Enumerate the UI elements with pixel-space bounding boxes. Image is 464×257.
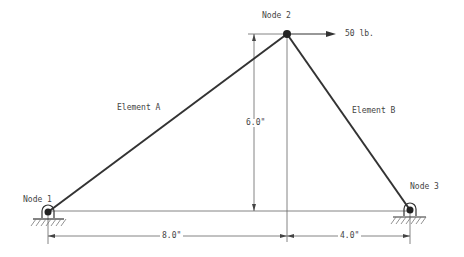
span-right-arrow-end	[403, 234, 410, 238]
height-arrow-top	[252, 34, 256, 41]
node1-pin-support	[31, 205, 66, 226]
height-arrow-bottom	[252, 204, 256, 211]
element-b-member	[287, 34, 410, 210]
node2-label: Node 2	[262, 12, 291, 20]
element-b-label: Element B	[352, 107, 395, 115]
load-label: 50 lb.	[345, 30, 374, 38]
node3-label: Node 3	[410, 183, 439, 191]
span-right-arrow-start	[287, 234, 294, 238]
truss-diagram	[0, 0, 464, 257]
span-left-label: 8.0"	[160, 232, 183, 240]
span-left-arrow-end	[280, 234, 287, 238]
span-right-label: 4.0"	[338, 232, 361, 240]
height-dimension-label: 6.0"	[246, 119, 265, 127]
node1-label: Node 1	[23, 196, 52, 204]
span-left-arrow-start	[48, 234, 55, 238]
load-arrow-head	[326, 31, 336, 37]
node2-joint	[283, 30, 291, 38]
element-a-label: Element A	[117, 104, 160, 112]
